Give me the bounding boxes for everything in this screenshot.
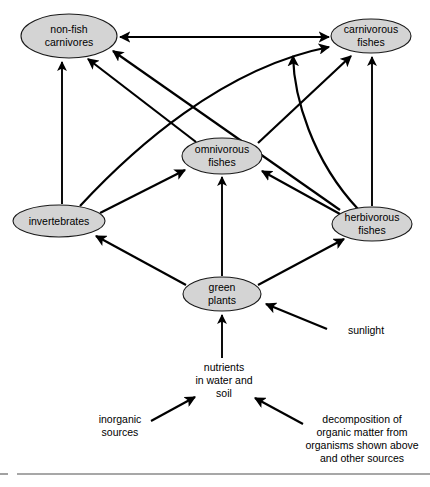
edge-sunlight-to-green-plants bbox=[266, 304, 327, 329]
label-decomposition-line1: decomposition of bbox=[322, 413, 401, 425]
node-carnivorous-fishes[interactable]: carnivorous fishes bbox=[331, 19, 411, 53]
node-label-line2: carnivores bbox=[45, 36, 93, 48]
edge-herbivorous-fishes-to-omnivorous-fishes bbox=[262, 171, 340, 214]
label-inorganic-sources-line2: sources bbox=[102, 426, 139, 438]
node-label-line1: omnivorous bbox=[195, 143, 249, 155]
node-herbivorous-fishes[interactable]: herbivorous fishes bbox=[332, 207, 412, 241]
node-non-fish-carnivores[interactable]: non-fish carnivores bbox=[21, 14, 117, 58]
label-nutrients-line3: soil bbox=[216, 387, 232, 399]
node-label-line2: plants bbox=[208, 294, 236, 306]
node-omnivorous-fishes[interactable]: omnivorous fishes bbox=[182, 138, 262, 174]
node-label-line2: fishes bbox=[358, 224, 385, 236]
node-label-line1: carnivorous bbox=[344, 23, 398, 35]
node-label-line1: green bbox=[209, 281, 236, 293]
edge-green-plants-to-herbivorous-fishes bbox=[258, 239, 344, 285]
node-label-line2: fishes bbox=[357, 36, 384, 48]
label-sunlight: sunlight bbox=[348, 324, 384, 336]
edge-omnivorous-fishes-to-carnivorous-fishes bbox=[258, 56, 351, 143]
label-nutrients-line1: nutrients bbox=[204, 361, 244, 373]
edge-invertebrates-to-carnivorous-fishes bbox=[80, 47, 329, 206]
label-nutrients: nutrients in water and soil bbox=[195, 361, 252, 399]
label-inorganic-sources: inorganic sources bbox=[99, 413, 142, 438]
label-inorganic-sources-line1: inorganic bbox=[99, 413, 142, 425]
label-decomposition: decomposition of organic matter from org… bbox=[305, 413, 418, 464]
food-web-diagram: carnivorous fishes : double headed --> bbox=[0, 0, 430, 487]
edge-inorganic-sources-to-nutrients bbox=[151, 397, 195, 421]
edge-green-plants-to-invertebrates bbox=[96, 236, 186, 285]
label-decomposition-line2: organic matter from bbox=[316, 426, 407, 438]
edge-invertebrates-to-omnivorous-fishes bbox=[100, 170, 185, 213]
food-web-canvas: carnivorous fishes : double headed --> bbox=[0, 0, 430, 487]
label-sunlight-line1: sunlight bbox=[348, 324, 384, 336]
node-label-line1: invertebrates bbox=[29, 215, 90, 227]
node-label-line1: non-fish bbox=[50, 23, 88, 35]
node-label-line1: herbivorous bbox=[345, 211, 400, 223]
label-decomposition-line4: and other sources bbox=[320, 452, 404, 464]
label-decomposition-line3: organisms shown above bbox=[305, 439, 418, 451]
node-invertebrates[interactable]: invertebrates bbox=[13, 205, 105, 237]
edge-decomposition-to-nutrients bbox=[255, 398, 303, 424]
node-green-plants[interactable]: green plants bbox=[183, 277, 261, 311]
edge-herbivorous-fishes-to-non-fish-carnivores bbox=[113, 51, 340, 210]
node-label-line2: fishes bbox=[208, 156, 235, 168]
label-nutrients-line2: in water and bbox=[195, 374, 252, 386]
